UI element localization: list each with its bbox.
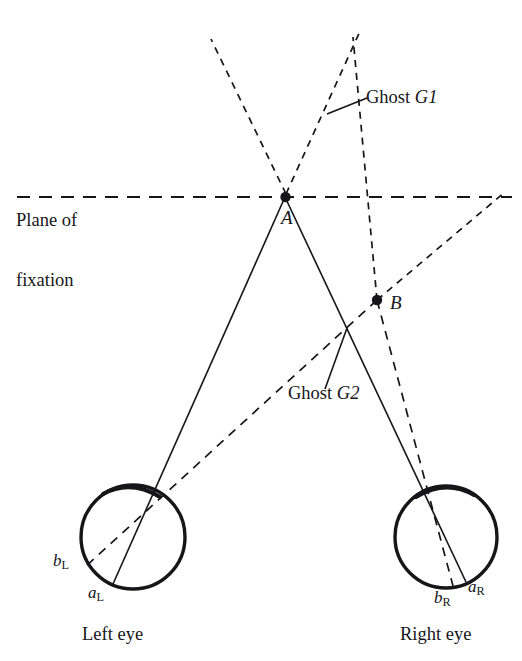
retina-point-a-right-label: aR xyxy=(468,578,485,598)
retina-point-a-left-sub: L xyxy=(97,590,104,604)
dashed-ray-b-to-right-retina xyxy=(377,300,453,586)
ghost-ray-left-through-a xyxy=(211,39,286,194)
retina-point-b-left-base: b xyxy=(53,551,62,570)
diagram-canvas xyxy=(0,0,522,661)
retina-point-b-right-label: bR xyxy=(434,589,451,609)
left-eye-globe xyxy=(81,485,185,589)
ghost-g2-label: Ghost G2 xyxy=(288,384,359,404)
point-a-label: A xyxy=(281,208,293,229)
plane-of-fixation-label-line2: fixation xyxy=(16,271,77,291)
ghost-g2-label-id: G2 xyxy=(337,383,360,403)
retina-point-b-right-base: b xyxy=(434,588,443,607)
retina-point-a-left-base: a xyxy=(88,583,97,602)
stereo-ghost-diagram: Plane of fixation Ghost G1 Ghost G2 A B … xyxy=(0,0,522,661)
retina-point-a-right-sub: R xyxy=(477,584,485,598)
ghost-g1-label-id: G1 xyxy=(415,87,438,107)
dashed-ray-b-to-left-retina xyxy=(84,300,377,568)
ghost-g1-label-word: Ghost xyxy=(366,87,410,107)
point-b-marker xyxy=(372,295,382,305)
right-eye-label: Right eye xyxy=(400,625,471,645)
plane-of-fixation-label-line1: Plane of xyxy=(16,211,77,231)
retina-point-b-left-sub: L xyxy=(62,558,69,572)
ghost-ray-right-through-a xyxy=(286,29,361,194)
retina-point-a-left-label: aL xyxy=(88,584,104,604)
retina-point-a-right-base: a xyxy=(468,577,477,596)
retina-point-b-left-label: bL xyxy=(53,552,69,572)
ghost-g2-label-word: Ghost xyxy=(288,383,332,403)
solid-ray-a-to-left-retina xyxy=(113,197,285,584)
point-a-marker xyxy=(280,192,290,202)
plane-of-fixation-label: Plane of fixation xyxy=(16,171,77,331)
ghost-g1-label: Ghost G1 xyxy=(366,88,437,108)
ghost-ray-left-through-b-extended xyxy=(377,192,505,300)
right-eye-globe xyxy=(395,486,497,588)
ghost-ray-right-through-b-upward xyxy=(353,37,377,300)
retina-point-b-right-sub: R xyxy=(443,595,451,609)
point-b-label: B xyxy=(390,293,402,314)
left-eye-label: Left eye xyxy=(82,625,143,645)
ghost1-leader-line xyxy=(327,98,367,114)
